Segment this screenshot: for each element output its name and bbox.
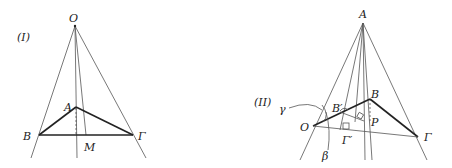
point-A: A [358,8,367,21]
angle-gamma: γ [279,103,286,116]
figure-2: (II) A B B′ O P Γ′ Γ γ β [254,8,432,163]
point-Gamma: Γ [137,130,146,143]
point-Gamma-prime: Γ′ [341,134,353,147]
point-B: B [370,88,379,101]
angle-beta: β [321,150,328,163]
point-B: B [22,130,31,143]
figure-1-label: (I) [17,31,30,44]
point-O: O [69,12,78,25]
point-M: M [83,141,96,154]
point-Gamma: Γ [423,131,432,144]
point-P: P [370,116,379,129]
geometry-diagram: (I) O A B Γ M (II) A B B′ O P Γ′ Γ γ β [0,0,452,168]
point-B-prime: B′ [331,102,343,115]
point-A: A [63,101,72,114]
point-O: O [300,121,309,134]
figure-1: (I) O A B Γ M [17,12,146,158]
figure-2-label: (II) [254,96,271,109]
